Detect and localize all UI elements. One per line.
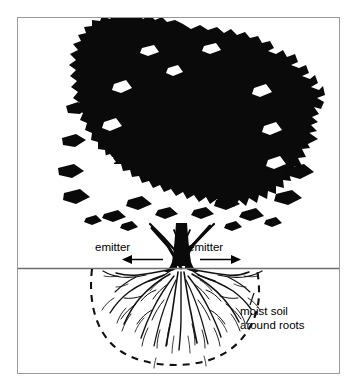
label-moist-soil-line1: moist soil: [240, 305, 336, 319]
dashed-moist-soil-ellipse: [91, 269, 259, 365]
figure-frame: emitter emitter moist soil around roots: [17, 17, 340, 374]
label-emitter-right: emitter: [188, 241, 223, 254]
label-emitter-left: emitter: [95, 241, 130, 254]
label-moist-soil: moist soil around roots: [240, 305, 336, 332]
label-moist-soil-line2: around roots: [240, 319, 336, 333]
emitter-arrow-left: [122, 255, 163, 264]
tree-canopy-silhouette: [58, 18, 325, 231]
page-header-fragment: [18, 0, 218, 8]
emitter-arrow-right: [200, 255, 241, 264]
